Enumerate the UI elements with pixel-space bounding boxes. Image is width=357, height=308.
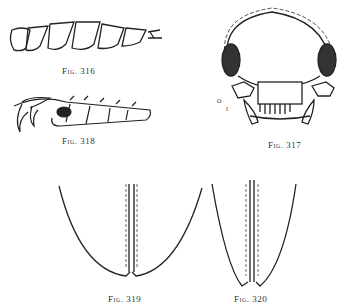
- caption-fig-316: Fig. 316: [62, 66, 95, 76]
- caption-fig-319: Fig. 319: [108, 294, 141, 304]
- label-i: i: [226, 104, 229, 113]
- elytra-apex-pointed-drawing: [212, 180, 296, 286]
- caption-fig-317: Fig. 317: [268, 140, 301, 150]
- label-o: o: [217, 96, 222, 105]
- elytra-apex-rounded-drawing: [59, 184, 202, 276]
- antenna-drawing: [10, 22, 162, 51]
- caption-fig-320: Fig. 320: [234, 294, 267, 304]
- tarsus-drawing: [14, 96, 151, 132]
- plate-illustrations: [0, 0, 357, 308]
- caption-fig-318: Fig. 318: [62, 136, 95, 146]
- head-drawing: [222, 8, 336, 124]
